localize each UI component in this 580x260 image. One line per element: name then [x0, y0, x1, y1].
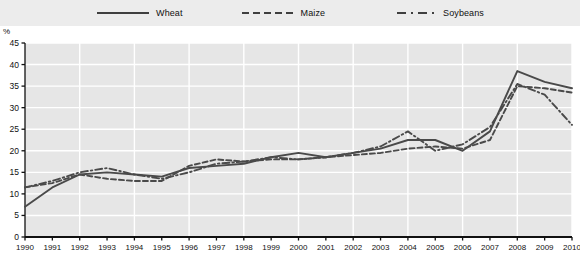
- svg-text:30: 30: [10, 103, 20, 113]
- svg-text:1992: 1992: [71, 243, 89, 252]
- svg-text:45: 45: [10, 38, 20, 48]
- svg-text:1991: 1991: [43, 243, 61, 252]
- svg-text:10: 10: [10, 189, 20, 199]
- svg-text:1995: 1995: [153, 243, 171, 252]
- svg-text:1990: 1990: [16, 243, 34, 252]
- svg-text:2003: 2003: [372, 243, 390, 252]
- svg-text:20: 20: [10, 146, 20, 156]
- chart-svg: 051015202530354045 199019911992199319941…: [0, 36, 580, 260]
- svg-text:35: 35: [10, 81, 20, 91]
- svg-text:2002: 2002: [344, 243, 362, 252]
- legend-item-wheat: Wheat: [96, 8, 183, 18]
- line-dashdot-icon: [383, 8, 437, 18]
- svg-text:2010: 2010: [563, 243, 580, 252]
- svg-text:2007: 2007: [481, 243, 499, 252]
- legend-item-soybeans: Soybeans: [383, 8, 484, 18]
- svg-text:1994: 1994: [126, 243, 144, 252]
- svg-text:2001: 2001: [317, 243, 335, 252]
- svg-text:25: 25: [10, 124, 20, 134]
- svg-text:2000: 2000: [290, 243, 308, 252]
- x-axis-tick-labels: 1990199119921993199419951996199719981999…: [16, 243, 580, 252]
- svg-text:5: 5: [14, 210, 19, 220]
- svg-text:1998: 1998: [235, 243, 253, 252]
- x-axis: [25, 237, 572, 241]
- legend-label-wheat: Wheat: [156, 8, 183, 18]
- chart-legend: Wheat Maize Soybeans: [0, 0, 580, 26]
- svg-text:1997: 1997: [208, 243, 226, 252]
- chart-figure: Wheat Maize Soybeans %: [0, 0, 580, 260]
- legend-label-soybeans: Soybeans: [443, 8, 484, 18]
- line-solid-icon: [96, 8, 150, 18]
- plot-area: 051015202530354045 199019911992199319941…: [0, 36, 580, 260]
- line-dashed-icon: [241, 8, 295, 18]
- svg-text:1993: 1993: [98, 243, 116, 252]
- svg-text:2009: 2009: [536, 243, 554, 252]
- y-axis-tick-labels: 051015202530354045: [10, 38, 20, 242]
- svg-text:1996: 1996: [180, 243, 198, 252]
- svg-text:1999: 1999: [262, 243, 280, 252]
- svg-text:15: 15: [10, 167, 20, 177]
- y-axis-unit: %: [3, 27, 10, 36]
- legend-item-maize: Maize: [241, 8, 326, 18]
- svg-text:2005: 2005: [426, 243, 444, 252]
- svg-text:0: 0: [14, 232, 19, 242]
- svg-text:2006: 2006: [454, 243, 472, 252]
- svg-text:2004: 2004: [399, 243, 417, 252]
- svg-text:2008: 2008: [508, 243, 526, 252]
- legend-label-maize: Maize: [301, 8, 326, 18]
- y-axis: [22, 43, 26, 237]
- svg-text:40: 40: [10, 60, 20, 70]
